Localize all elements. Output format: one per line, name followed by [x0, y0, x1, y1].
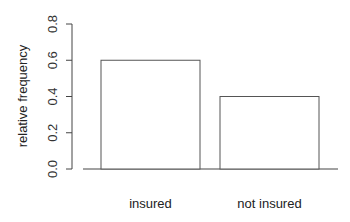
y-axis-title: relative frequency [15, 44, 30, 147]
y-axis: 0.00.20.40.60.8 [45, 15, 72, 178]
y-tick-label: 0.0 [45, 160, 60, 178]
y-tick-label: 0.8 [45, 15, 60, 33]
y-tick-label: 0.2 [45, 124, 60, 142]
y-tick-label: 0.4 [45, 87, 60, 105]
bars [101, 60, 319, 169]
bar-chart: relative frequency 0.00.20.40.60.8 insur… [0, 0, 350, 222]
x-category-label: not insured [237, 196, 301, 211]
x-category-labels: insurednot insured [129, 196, 301, 211]
y-tick-label: 0.6 [45, 51, 60, 69]
bar-insured [101, 60, 200, 169]
bar-not-insured [220, 97, 319, 170]
x-category-label: insured [129, 196, 172, 211]
